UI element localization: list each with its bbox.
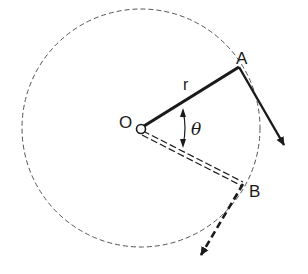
- origin-pivot-icon: [137, 125, 146, 134]
- radius-ob-dashed: [142, 131, 243, 186]
- label-angle-theta: θ: [191, 119, 201, 139]
- angle-theta-arc: [180, 108, 186, 148]
- rotation-diagram: O A r B θ: [0, 0, 308, 274]
- label-point-b: B: [249, 182, 260, 201]
- radius-oa: [144, 67, 239, 126]
- velocity-arrow-b-dashed: [201, 184, 243, 255]
- label-point-a: A: [236, 49, 248, 68]
- velocity-arrow-a: [239, 67, 284, 145]
- label-origin: O: [119, 113, 132, 132]
- label-radius: r: [183, 76, 189, 93]
